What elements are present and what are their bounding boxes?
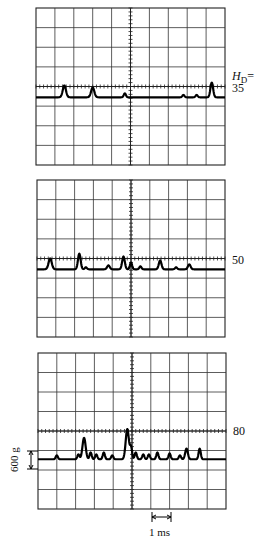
scope-panel-1	[36, 8, 225, 165]
time-scale-bar	[152, 512, 171, 522]
amplitude-scale-label: 600 g	[9, 440, 20, 480]
panel-3-hd-value: 80	[233, 425, 245, 437]
panel-1-hd-value: 35	[232, 82, 244, 94]
amplitude-scale-bar	[27, 451, 38, 469]
scope-panel-3	[38, 353, 226, 509]
scope-panel-2	[37, 180, 225, 337]
panel-2-hd-value: 50	[232, 254, 244, 266]
time-scale-label: 1 ms	[149, 527, 170, 538]
oscilloscope-figure	[0, 0, 256, 546]
